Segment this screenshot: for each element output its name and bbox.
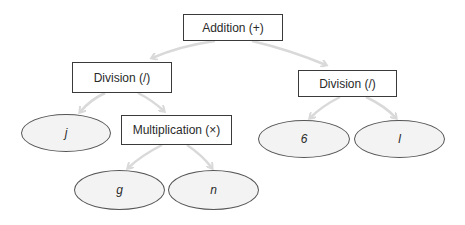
node-right-division-label: Division (/) (319, 77, 376, 91)
node-right-division: Division (/) (298, 70, 397, 97)
node-left-division-label: Division (/) (94, 71, 151, 85)
edge-multiplication-to-n (187, 145, 212, 168)
leaf-n-label: n (210, 183, 217, 197)
node-multiplication-label: Multiplication (×) (133, 123, 221, 137)
expression-tree-diagram: Addition (+) Division (/) Division (/) M… (0, 0, 465, 225)
edge-right-division-to-6 (310, 97, 340, 118)
leaf-g: g (74, 170, 165, 210)
leaf-j-label: j (65, 126, 68, 140)
leaf-l: l (354, 120, 445, 158)
leaf-n: n (168, 170, 259, 210)
node-left-division: Division (/) (72, 62, 172, 93)
node-multiplication: Multiplication (×) (121, 115, 232, 145)
leaf-6-label: 6 (301, 132, 308, 146)
edge-left-division-to-multiplication (138, 93, 164, 111)
edge-root-to-left-division (152, 41, 215, 58)
node-addition-label: Addition (+) (202, 21, 264, 35)
leaf-6: 6 (258, 120, 350, 158)
leaf-g-label: g (116, 183, 123, 197)
edge-left-division-to-j (80, 93, 105, 112)
edge-multiplication-to-g (128, 145, 162, 168)
edge-right-division-to-l (366, 97, 396, 118)
leaf-l-label: l (398, 132, 401, 146)
node-addition: Addition (+) (183, 14, 283, 41)
edge-root-to-right-division (252, 41, 326, 65)
leaf-j: j (21, 114, 111, 152)
